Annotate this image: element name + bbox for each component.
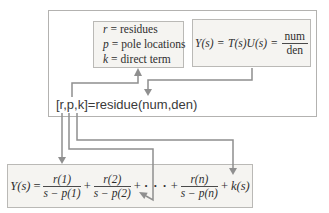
term-1-denominator: s − p(1) xyxy=(43,187,80,199)
term-2-numerator: r(2) xyxy=(94,174,131,187)
equals-sign: = xyxy=(33,179,40,194)
legend-var-p: p xyxy=(103,38,109,50)
plus-sign: + xyxy=(171,179,178,194)
legend-desc-residues: residues xyxy=(120,23,158,35)
output-legend-box: r=residues p=pole locations k=direct ter… xyxy=(93,21,184,68)
ellipsis: · · · xyxy=(144,179,168,194)
term-2-denominator: s − p(2) xyxy=(94,187,131,199)
legend-line-direct-term: k=direct term xyxy=(103,52,183,67)
expansion-lhs: Y(s) xyxy=(10,179,30,194)
num-den-fraction: num den xyxy=(282,31,308,56)
direct-term: k(s) xyxy=(231,179,250,194)
term-1-fraction: r(1) s − p(1) xyxy=(43,174,80,199)
transfer-lhs: Y(s) xyxy=(195,37,214,49)
residue-function-diagram: r=residues p=pole locations k=direct ter… xyxy=(0,0,329,213)
term-n-denominator: s − p(n) xyxy=(181,187,218,199)
fraction-numerator: num xyxy=(282,31,308,44)
legend-var-r: r xyxy=(103,23,107,35)
equals-sign: = xyxy=(218,37,225,49)
legend-line-poles: p=pole locations xyxy=(103,37,183,52)
term-1-numerator: r(1) xyxy=(43,174,80,187)
arrow-r-to-expansion xyxy=(58,113,66,164)
partial-fraction-expansion-box: Y(s) = r(1) s − p(1) + r(2) s − p(2) + ·… xyxy=(7,164,253,208)
fraction-denominator: den xyxy=(282,44,308,56)
equals-sign: = xyxy=(112,38,119,50)
equals-sign: = xyxy=(271,37,278,49)
term-2-fraction: r(2) s − p(2) xyxy=(94,174,131,199)
transfer-rhs: T(s)U(s) xyxy=(228,37,267,49)
legend-var-k: k xyxy=(103,53,108,65)
term-n-numerator: r(n) xyxy=(181,174,218,187)
legend-line-residues: r=residues xyxy=(103,22,183,37)
matlab-residue-command: [r,p,k]=residue(num,den) xyxy=(56,98,197,112)
legend-desc-direct-term: direct term xyxy=(121,53,171,65)
equals-sign: = xyxy=(111,53,118,65)
legend-desc-poles: pole locations xyxy=(121,38,185,50)
equals-sign: = xyxy=(110,23,117,35)
plus-sign: + xyxy=(134,179,141,194)
transfer-function-box: Y(s) = T(s)U(s) = num den xyxy=(192,19,311,67)
plus-sign: + xyxy=(221,179,228,194)
term-n-fraction: r(n) s − p(n) xyxy=(181,174,218,199)
plus-sign: + xyxy=(84,179,91,194)
